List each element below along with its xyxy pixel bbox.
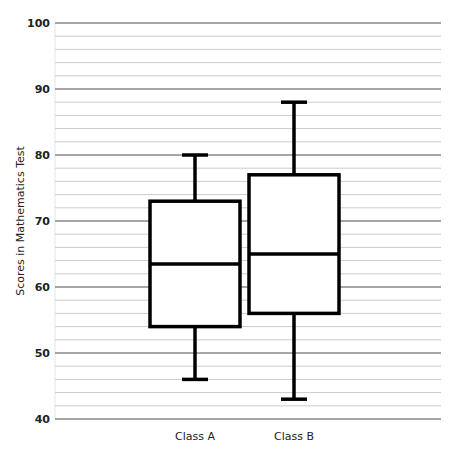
y-tick-label: 80 xyxy=(35,149,51,162)
y-tick-label: 100 xyxy=(27,17,50,30)
y-tick-label: 40 xyxy=(35,413,51,426)
y-axis-ticks: 405060708090100 xyxy=(27,17,50,426)
box-plot-chart: 405060708090100 Scores in Mathematics Te… xyxy=(0,0,458,457)
x-category-label: Class A xyxy=(175,430,215,443)
y-tick-label: 60 xyxy=(35,281,51,294)
y-axis-title: Scores in Mathematics Test xyxy=(14,146,27,296)
box-class-b xyxy=(249,102,339,399)
x-axis-categories: Class AClass B xyxy=(175,430,314,443)
boxes xyxy=(150,102,339,399)
y-tick-label: 90 xyxy=(35,83,51,96)
y-tick-label: 50 xyxy=(35,347,51,360)
box-class-a xyxy=(150,155,240,379)
y-tick-label: 70 xyxy=(35,215,51,228)
x-category-label: Class B xyxy=(274,430,314,443)
